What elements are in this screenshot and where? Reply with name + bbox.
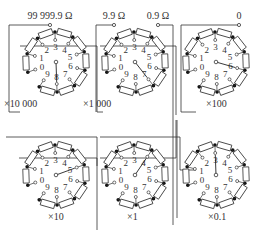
dial-hub-icon[interactable] [214,60,218,64]
contact-stud-icon [67,42,70,45]
dial-digit: 4 [62,158,67,168]
dial-digit: 2 [45,45,50,55]
dial-digit: 4 [62,45,67,55]
dial-digit: 7 [223,182,228,192]
dial-multiplier-label: ×1 [127,211,138,222]
dial-multiplier-label: ×10 000 [4,98,37,109]
contact-stud-icon [134,195,137,198]
dial-digit: 9 [124,182,129,192]
resistor-icon [59,198,74,208]
dial-digit: 8 [54,185,59,195]
contact-stud-icon [201,156,204,159]
resistor-icon [73,36,86,51]
contact-stud-icon [76,67,79,70]
dial-digit: 1 [39,53,44,63]
contact-stud-icon [55,82,58,85]
terminal: 9.9 Ω [103,10,125,27]
contact-stud-icon [193,54,196,57]
resistor-icon [104,38,117,53]
decade-dial: 0123456789×10 000 [4,28,89,109]
dial-digit: 9 [205,69,210,79]
dial-multiplier-label: ×100 [206,98,227,109]
dial-hub-icon[interactable] [133,60,137,64]
resistor-icon [243,167,249,181]
dial-digit: 0 [40,175,45,185]
resistor-icon [38,142,53,152]
dial-digit: 9 [124,69,129,79]
resistor-icon [183,56,189,70]
contact-stud-icon [120,156,123,159]
terminal-label: 0.9 Ω [147,10,169,21]
contact-stud-icon [154,53,157,56]
dial-hub-icon[interactable] [133,173,137,177]
resistor-icon [73,149,86,164]
contact-stud-icon [33,54,36,57]
dial-digit: 8 [214,185,219,195]
resistor-icon [217,28,232,38]
dial-digit: 4 [222,158,227,168]
contact-stud-icon [215,82,218,85]
terminal-label: 0 [237,10,242,21]
contact-stud-icon [194,68,197,71]
dial-digit: 4 [141,45,146,55]
terminal: 99 999.9 Ω [28,10,73,27]
dial-digit: 7 [223,69,228,79]
contact-stud-icon [33,167,36,170]
resistor-icon [153,71,166,86]
resistor-icon [185,151,198,166]
dial-digit: 0 [119,62,124,72]
terminal-post-icon [237,23,240,26]
resistor-icon [117,29,132,39]
resistor-icon [136,28,151,38]
resistor-icon [243,54,249,68]
contact-stud-icon [55,195,58,198]
contact-stud-icon [75,166,78,169]
resistor-icon [200,86,215,96]
contact-stud-icon [76,180,79,183]
contact-stud-icon [194,181,197,184]
dial-digit: 6 [228,174,233,184]
resistor-icon [83,54,89,68]
resistor-icon [219,85,234,95]
dial-digit: 6 [68,174,73,184]
dial-digit: 8 [214,72,219,82]
resistor-icon [40,86,55,96]
dial-digit: 6 [68,61,73,71]
contact-stud-icon [227,155,230,158]
resistor-icon [102,56,108,70]
terminal-post-icon [48,23,51,26]
contact-stud-icon [41,43,44,46]
dial-digit: 6 [147,174,152,184]
contact-stud-icon [112,167,115,170]
resistor-icon [217,141,232,151]
dial-digit: 1 [199,166,204,176]
dial-digit: 1 [118,166,123,176]
dial-digit: 7 [63,69,68,79]
contact-stud-icon [154,166,157,169]
dial-hub-icon[interactable] [54,60,58,64]
resistor-icon [74,184,87,199]
terminal-post-icon [112,23,115,26]
contact-stud-icon [227,42,230,45]
dial-hub-icon[interactable] [54,173,58,177]
resistor-icon [185,38,198,53]
dial-hub-icon[interactable] [214,173,218,177]
dial-digit: 2 [124,45,129,55]
resistor-icon [102,169,108,183]
contact-stud-icon [228,78,231,81]
dial-multiplier-label: ×0.1 [208,211,226,222]
contact-stud-icon [193,167,196,170]
resistor-icon [152,149,165,164]
resistor-icon [219,198,234,208]
dial-digit: 3 [213,42,218,52]
dial-digit: 6 [147,61,152,71]
dial-digit: 2 [124,158,129,168]
resistor-icon [23,169,29,183]
resistor-icon [59,85,74,95]
contact-stud-icon [41,156,44,159]
dial-digit: 0 [40,62,45,72]
contact-stud-icon [146,155,149,158]
dial-digit: 4 [222,45,227,55]
dial-digit: 0 [200,62,205,72]
contact-stud-icon [67,155,70,158]
